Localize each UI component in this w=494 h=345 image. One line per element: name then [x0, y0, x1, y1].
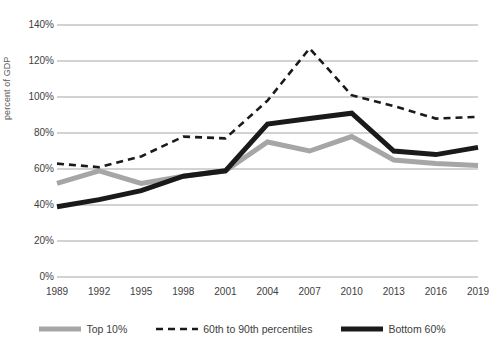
- x-axis-tick-label: 1989: [34, 287, 80, 297]
- legend-item[interactable]: Bottom 60%: [340, 323, 445, 335]
- series-line: [57, 48, 478, 167]
- legend-item[interactable]: 60th to 90th percentiles: [155, 323, 312, 335]
- legend-label: 60th to 90th percentiles: [203, 323, 312, 335]
- x-axis-tick-label: 1995: [118, 287, 164, 297]
- x-axis-tick-label: 1998: [160, 287, 206, 297]
- legend-swatch: [38, 323, 82, 335]
- legend-swatch: [155, 323, 199, 335]
- legend-swatch: [340, 323, 384, 335]
- x-axis-tick-label: 2019: [455, 287, 494, 297]
- x-axis-tick-label: 2004: [245, 287, 291, 297]
- x-axis-tick-label: 2013: [371, 287, 417, 297]
- legend-label: Top 10%: [86, 323, 127, 335]
- x-axis-tick-label: 2010: [329, 287, 375, 297]
- x-axis-tick-label: 2001: [202, 287, 248, 297]
- x-axis-tick-label: 1992: [76, 287, 122, 297]
- legend-item[interactable]: Top 10%: [38, 323, 127, 335]
- chart-legend: Top 10%60th to 90th percentilesBottom 60…: [0, 318, 484, 340]
- series-line: [57, 137, 478, 184]
- x-axis-tick-label: 2016: [413, 287, 459, 297]
- x-axis-tick-label: 2007: [287, 287, 333, 297]
- legend-label: Bottom 60%: [388, 323, 445, 335]
